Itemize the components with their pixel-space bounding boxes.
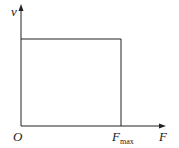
origin-label: O xyxy=(13,130,22,143)
x-axis-arrow-icon xyxy=(159,124,166,129)
fmax-label-main: F xyxy=(112,129,120,144)
x-axis-label: F xyxy=(159,130,167,143)
fmax-label-sub: max xyxy=(120,137,134,146)
graph-canvas xyxy=(0,0,179,148)
y-axis-arrow-icon xyxy=(19,4,24,11)
fmax-label: Fmax xyxy=(112,130,134,146)
y-axis-label: v xyxy=(11,5,17,18)
